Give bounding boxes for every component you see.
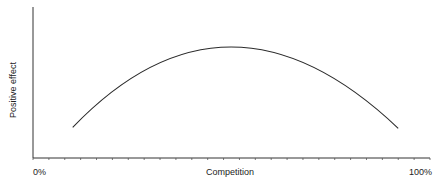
chart-area	[0, 0, 448, 189]
x-max-label: 100%	[409, 167, 432, 177]
effect-curve	[73, 47, 399, 128]
x-min-label: 0%	[33, 167, 46, 177]
x-axis-title: Competition	[206, 167, 254, 177]
y-axis-title: Positive effect	[8, 62, 18, 118]
